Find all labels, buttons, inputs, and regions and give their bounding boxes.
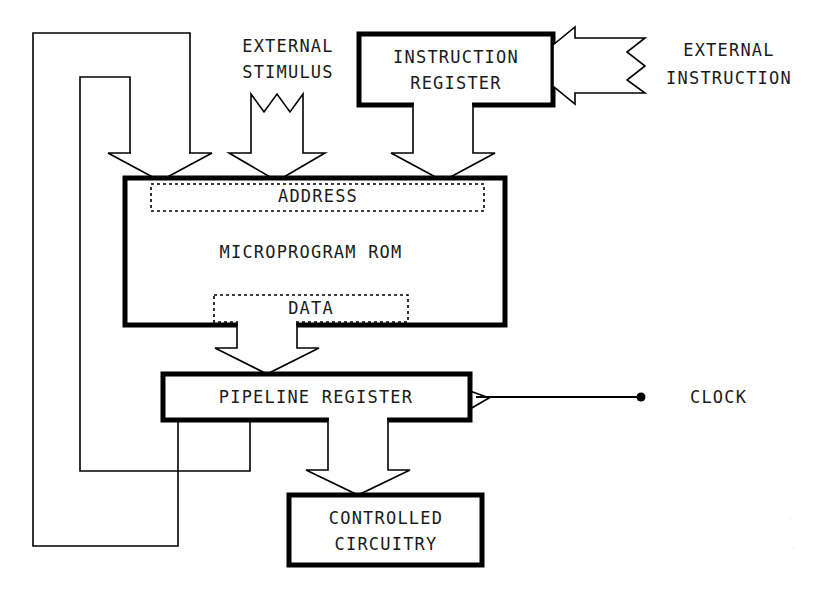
clock-edge-trigger-icon: [470, 391, 489, 409]
clock-label: CLOCK: [690, 387, 747, 407]
instruction-arrow-gap-mask: [414, 100, 472, 108]
instruction-register-box: [359, 34, 553, 105]
controlled-circuitry-label-line2: CIRCUITRY: [335, 534, 438, 554]
clock-terminal-dot: [637, 393, 646, 402]
external-instruction-label-line1: EXTERNAL: [683, 40, 774, 60]
controlled-circuitry-label-line1: CONTROLLED: [329, 508, 443, 528]
pipeline-arrow-gap-mask: [329, 415, 387, 423]
diagram-canvas: INSTRUCTION REGISTER EXTERNAL INSTRUCTIO…: [0, 0, 830, 599]
pipeline-register-label: PIPELINE REGISTER: [219, 387, 413, 407]
data-to-pipeline-arrow: [215, 325, 319, 374]
instruction-register-label-line2: REGISTER: [410, 73, 501, 93]
feedback-arrow-gap-mask: [131, 146, 189, 155]
external-instruction-arrow: [553, 27, 645, 104]
external-stimulus-arrow: [229, 94, 325, 181]
microprogram-control-diagram: INSTRUCTION REGISTER EXTERNAL INSTRUCTIO…: [0, 0, 830, 599]
data-field-label: DATA: [288, 298, 334, 318]
external-stimulus-label-line1: EXTERNAL: [242, 36, 333, 56]
controlled-circuitry-box: [289, 495, 482, 565]
instruction-register-label-line1: INSTRUCTION: [393, 47, 519, 67]
external-instruction-label-line2: INSTRUCTION: [666, 68, 792, 88]
data-arrow-gap-mask: [238, 320, 296, 328]
pipeline-to-circuitry-arrow: [306, 420, 410, 495]
microprogram-rom-label: MICROPROGRAM ROM: [220, 242, 403, 262]
address-field-label: ADDRESS: [278, 186, 358, 206]
instruction-to-address-arrow: [391, 105, 495, 181]
external-stimulus-label-line2: STIMULUS: [242, 62, 333, 82]
